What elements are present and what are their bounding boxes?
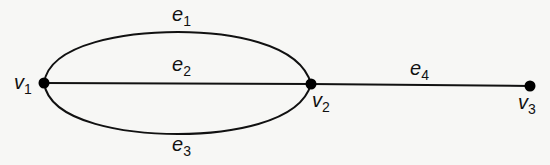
- label-e2-sub: 2: [183, 63, 191, 79]
- label-e3: e3: [172, 134, 191, 158]
- label-e1-sub: 1: [183, 13, 191, 29]
- label-e4: e4: [410, 58, 429, 82]
- label-v1-name: v: [14, 71, 24, 93]
- vertex-v2-dot: [306, 79, 317, 90]
- label-v3: v3: [518, 92, 536, 116]
- label-v2-sub: 2: [322, 99, 330, 115]
- label-v2-name: v: [312, 89, 322, 111]
- label-e4-name: e: [410, 57, 421, 79]
- label-e3-name: e: [172, 133, 183, 155]
- label-e2: e2: [172, 54, 191, 78]
- label-v1-sub: 1: [24, 81, 32, 97]
- edge-e3-arc: [44, 83, 311, 134]
- edge-e4-line: [311, 84, 530, 86]
- graph-diagram: e1 e2 e3 e4 v1 v2 v3: [0, 0, 550, 165]
- label-e1: e1: [172, 4, 191, 28]
- vertex-v1-dot: [39, 78, 50, 89]
- label-e2-name: e: [172, 53, 183, 75]
- edge-e2-line: [44, 83, 311, 84]
- label-v3-sub: 3: [528, 101, 536, 117]
- label-e1-name: e: [172, 3, 183, 25]
- graph-edges: [0, 0, 550, 165]
- label-v1: v1: [14, 72, 32, 96]
- vertex-v3-dot: [525, 81, 536, 92]
- label-v3-name: v: [518, 91, 528, 113]
- label-e3-sub: 3: [183, 143, 191, 159]
- label-e4-sub: 4: [421, 67, 429, 83]
- label-v2: v2: [312, 90, 330, 114]
